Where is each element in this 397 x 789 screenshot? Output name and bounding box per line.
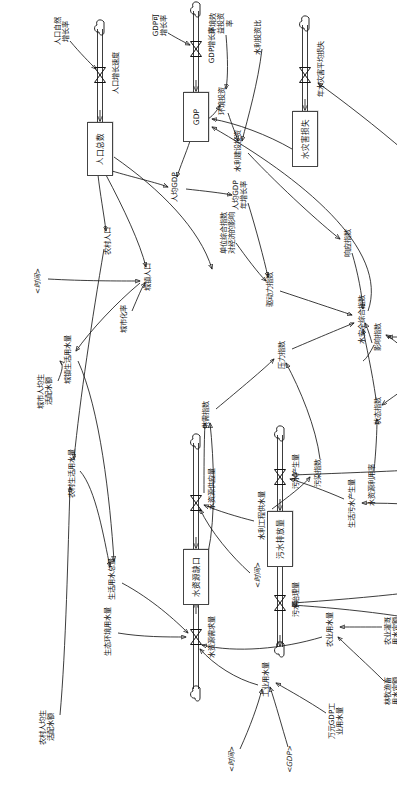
flow-label-water-supply[interactable]: 水资源供应量 bbox=[208, 468, 216, 510]
var-rural-domestic-water[interactable]: 农村生活用水量 bbox=[68, 449, 76, 498]
var-water-per-10k-gdp[interactable]: 万元GDP工 业用水量 bbox=[328, 703, 345, 739]
var-supply-demand-index[interactable]: 供需指数 bbox=[202, 401, 210, 429]
diagram-canvas: 水资源缺口 污水排放量 人口总数 GDP 水灾害损失 水资源需求量 水资源供应量… bbox=[0, 0, 397, 789]
cloud-source-population bbox=[92, 17, 108, 37]
var-unit-index-econ-impact[interactable]: 单位综合指数 对经济的影响 bbox=[220, 212, 237, 254]
cloud-source-gdp bbox=[188, 0, 204, 19]
valve-gdp-growth bbox=[190, 41, 203, 58]
cloud-source-flood-loss bbox=[297, 13, 313, 33]
valve-sewage-generation bbox=[274, 469, 287, 486]
stock-population-total[interactable]: 人口总数 bbox=[87, 122, 113, 176]
var-time-shadow-5[interactable]: <时间> bbox=[34, 268, 42, 294]
var-population-natural-growth-rate[interactable]: 人口自然增长率 bbox=[54, 16, 71, 47]
var-agri-irrigation-quota[interactable]: 农业灌溉 用水定额 bbox=[384, 617, 397, 645]
var-gdp-shadow-1[interactable]: <GDP> bbox=[286, 745, 294, 772]
valve-water-demand bbox=[190, 629, 203, 646]
valve-population-growth bbox=[94, 67, 107, 84]
var-industrial-water[interactable]: 工业用水量 bbox=[262, 662, 270, 697]
var-forest-livestock-quota[interactable]: 林牧渔畜 用水定额 bbox=[384, 677, 397, 705]
valve-sewage-treatment bbox=[274, 595, 287, 612]
cloud-source-demand bbox=[188, 683, 204, 703]
stock-sewage-discharge[interactable]: 污水排放量 bbox=[267, 511, 293, 567]
var-water-investment-ratio[interactable]: 水利投资比 bbox=[254, 20, 262, 55]
cloud-sink-sewage-treatment bbox=[272, 639, 288, 659]
var-rural-per-capita-water[interactable]: 农村人均生 活配水额 bbox=[39, 710, 56, 745]
cloud-sink-supply bbox=[188, 431, 204, 451]
var-urban-domestic-water[interactable]: 城镇生活用水量 bbox=[64, 335, 72, 384]
var-water-security-index[interactable]: 水安全综合指数 bbox=[358, 295, 366, 344]
var-urban-population[interactable]: 城镇人口 bbox=[144, 263, 152, 291]
var-state-index[interactable]: 状态指数 bbox=[374, 397, 382, 425]
var-rural-population[interactable]: 农村人口 bbox=[104, 227, 112, 255]
var-water-construction-investment[interactable]: 水利建设投资 bbox=[234, 130, 242, 172]
var-response-index[interactable]: 响应指数 bbox=[344, 229, 352, 257]
var-time-shadow-1[interactable]: <时间> bbox=[228, 746, 236, 772]
var-urban-per-capita-water[interactable]: 城市人均生 活配水额 bbox=[37, 374, 54, 409]
flow-label-population-growth[interactable]: 人口增长速度 bbox=[112, 52, 120, 94]
var-domestic-sewage-generation[interactable]: 生活污水产生量 bbox=[348, 479, 356, 528]
cloud-source-sewage bbox=[272, 423, 288, 443]
stock-water-gap[interactable]: 水资源缺口 bbox=[183, 549, 209, 605]
var-driving-force-index[interactable]: 驱动力指数 bbox=[266, 272, 274, 307]
var-agricultural-water[interactable]: 农业用水量 bbox=[326, 612, 334, 647]
var-per-capita-gdp-growth-rate[interactable]: 人均GDP 年增长率 bbox=[232, 180, 249, 209]
stock-gdp[interactable]: GDP bbox=[183, 92, 209, 142]
var-pressure-index[interactable]: 压力指数 bbox=[278, 341, 286, 369]
var-time-shadow-2[interactable]: <时间> bbox=[254, 562, 262, 588]
var-gdp-growth-rate[interactable]: GDP可增长率 bbox=[152, 13, 169, 38]
var-environmental-benefit-investment-rate[interactable]: 环境效益投资率 bbox=[209, 12, 234, 35]
var-eco-env-water[interactable]: 生态环境用水量 bbox=[104, 607, 112, 656]
flow-label-sewage-generation[interactable]: 污水产生量 bbox=[292, 454, 300, 489]
var-water-project-supply[interactable]: 水利工程供水量 bbox=[258, 491, 266, 540]
var-urbanization-rate[interactable]: 城市化率 bbox=[120, 305, 128, 333]
var-domestic-water-total[interactable]: 生活用水总量 bbox=[108, 558, 116, 600]
var-environmental-investment[interactable]: 环境投资 bbox=[218, 87, 226, 115]
valve-flood-loss bbox=[299, 67, 312, 84]
flow-label-sewage-treatment[interactable]: 污水治理量 bbox=[292, 582, 300, 617]
var-pollution-index[interactable]: 污染指数 bbox=[314, 459, 322, 487]
flow-label-flood-loss[interactable]: 年水灾害平均损失 bbox=[317, 41, 325, 97]
valve-water-supply bbox=[190, 495, 203, 512]
system-dynamics-model: 水资源缺口 污水排放量 人口总数 GDP 水灾害损失 水资源需求量 水资源供应量… bbox=[0, 0, 397, 789]
var-impact-index[interactable]: 影响指数 bbox=[374, 323, 382, 351]
stock-flood-loss[interactable]: 水灾害损失 bbox=[292, 111, 318, 167]
var-per-capita-gdp[interactable]: 人均GDP bbox=[171, 172, 179, 201]
flow-label-water-demand[interactable]: 水资源需求量 bbox=[208, 616, 216, 658]
var-water-resource-use-rate[interactable]: 水资源利用率 bbox=[368, 464, 376, 506]
